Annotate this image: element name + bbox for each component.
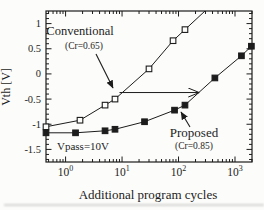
scan-artifact-line — [4, 204, 264, 206]
conventional-marker-open-square — [43, 124, 49, 130]
y-tick-label: 0 — [36, 68, 41, 79]
y-tick-label: -1.5 — [24, 144, 41, 155]
proposed-marker-filled-square — [182, 102, 188, 108]
proposed-marker-filled-square — [73, 130, 79, 136]
chart-canvas: 10010110210310.50-0.5-1-1.5Additional pr… — [0, 0, 264, 210]
proposed-marker-filled-square — [43, 130, 49, 136]
conventional-marker-open-square — [182, 27, 188, 33]
y-tick-label: -1 — [32, 119, 41, 130]
x-tick-label: 100 — [58, 164, 74, 178]
conventional-marker-open-square — [77, 117, 83, 123]
proposed-marker-filled-square — [239, 53, 245, 59]
x-tick-label: 103 — [227, 164, 243, 178]
axes-layer: 10010110210310.50-0.5-1-1.5Additional pr… — [0, 11, 252, 202]
y-tick-label: -0.5 — [24, 94, 41, 105]
conventional-marker-open-square — [146, 66, 152, 72]
y-tick-label: 1 — [36, 18, 41, 29]
vth-vs-program-cycles-chart: 10010110210310.50-0.5-1-1.5Additional pr… — [0, 0, 264, 210]
conventional-cr-label: (Cr=0.65) — [65, 41, 103, 52]
y-axis-label: Vth [V] — [0, 68, 13, 106]
x-tick-label: 101 — [114, 164, 129, 178]
proposed-marker-filled-square — [212, 75, 218, 81]
conventional-pointer-arrow — [96, 54, 113, 88]
proposed-marker-filled-square — [249, 43, 255, 49]
conventional-marker-open-square — [170, 38, 176, 44]
proposed-marker-filled-square — [142, 119, 148, 125]
proposed-marker-filled-square — [102, 128, 108, 134]
conventional-marker-open-square — [112, 96, 118, 102]
conventional-marker-open-square — [102, 102, 108, 108]
proposed-marker-filled-square — [172, 107, 178, 113]
proposed-cr-label: (Cr=0.85) — [175, 141, 213, 152]
y-tick-label: 0.5 — [28, 43, 41, 54]
proposed-marker-filled-square — [112, 126, 118, 132]
x-tick-label: 102 — [171, 164, 187, 178]
x-axis-label: Additional program cycles — [79, 187, 218, 202]
proposed-label: Proposed — [170, 125, 219, 140]
conventional-label: Conventional — [46, 24, 114, 38]
vpass-annotation: Vpass=10V — [57, 140, 109, 152]
